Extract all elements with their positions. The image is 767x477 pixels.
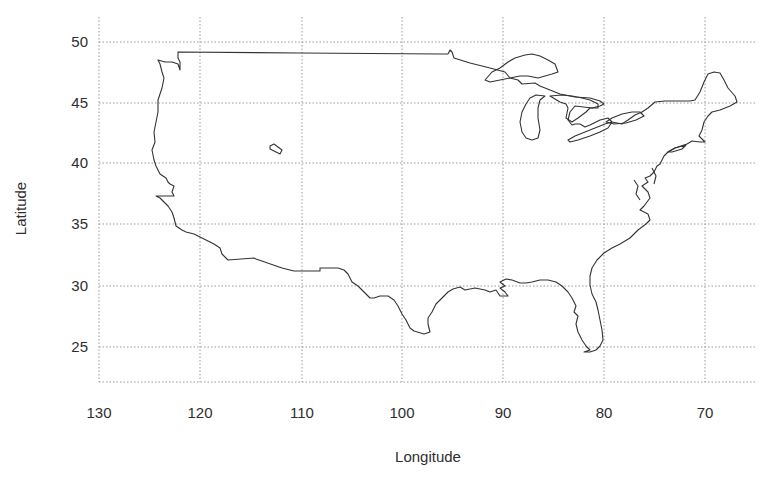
y-tick-label-45: 45 <box>48 94 88 111</box>
x-tick-label-80: 80 <box>584 404 624 421</box>
us-coastline-outline <box>152 50 737 352</box>
y-tick-label-25: 25 <box>48 338 88 355</box>
us-outline-map-figure: 50 45 40 35 30 25 130 120 110 100 90 80 … <box>0 0 767 477</box>
y-tick-label-50: 50 <box>48 33 88 50</box>
y-tick-label-35: 35 <box>48 215 88 232</box>
x-axis-title: Longitude <box>0 448 767 465</box>
x-tick-label-90: 90 <box>483 404 523 421</box>
x-tick-label-120: 120 <box>180 404 220 421</box>
x-tick-label-70: 70 <box>685 404 725 421</box>
x-tick-label-110: 110 <box>282 404 322 421</box>
x-tick-label-130: 130 <box>79 404 119 421</box>
y-tick-label-40: 40 <box>48 154 88 171</box>
y-tick-label-30: 30 <box>48 277 88 294</box>
y-axis-title: Latitude <box>12 179 29 239</box>
x-tick-label-100: 100 <box>382 404 422 421</box>
grid-lines <box>99 17 756 382</box>
